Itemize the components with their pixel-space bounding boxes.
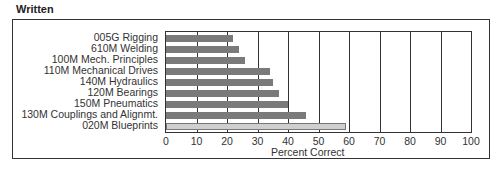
gridline	[349, 32, 350, 132]
x-tick-label: 30	[252, 135, 264, 147]
category-label: 020M Blueprints	[82, 119, 158, 131]
bar	[166, 79, 273, 86]
x-tick-label: 10	[191, 135, 203, 147]
x-tick-label: 0	[163, 135, 169, 147]
x-axis-label: Percent Correct	[271, 146, 345, 158]
x-tick-label: 80	[404, 135, 416, 147]
gridline	[441, 32, 442, 132]
bar	[166, 123, 346, 130]
bar	[166, 101, 288, 108]
bar	[166, 57, 245, 64]
x-tick-label: 90	[435, 135, 447, 147]
gridline	[380, 32, 381, 132]
bar	[166, 68, 270, 75]
plot-area	[165, 31, 472, 133]
bar	[166, 112, 306, 119]
bar	[166, 35, 233, 42]
x-tick-label: 20	[221, 135, 233, 147]
x-tick-label: 100	[462, 135, 480, 147]
x-tick-label: 70	[374, 135, 386, 147]
gridline	[410, 32, 411, 132]
section-title: Written	[16, 3, 54, 15]
bar	[166, 90, 279, 97]
bar	[166, 46, 239, 53]
gridline	[319, 32, 320, 132]
